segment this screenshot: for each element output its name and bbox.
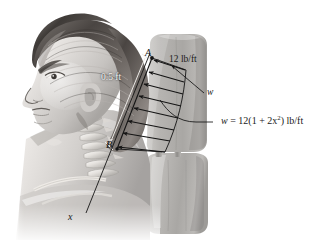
mechanics-figure: A B 0.5 ft 12 lb/ft w x w = 12(1 + 2x2) … xyxy=(0,0,315,240)
label-point-b: B xyxy=(106,140,112,150)
label-load-equation: w = 12(1 + 2x2) lb/ft xyxy=(221,115,303,126)
label-load-symbol-w: w xyxy=(207,88,213,98)
label-point-a: A xyxy=(145,48,151,58)
equation-tail: ) lb/ft xyxy=(281,115,304,126)
equation-lhs: w xyxy=(221,115,228,126)
equation-coefficient: 12(1 + 2x xyxy=(238,115,277,126)
label-peak-load: 12 lb/ft xyxy=(169,55,197,65)
label-dimension-0p5ft: 0.5 ft xyxy=(101,73,121,83)
point-b-marker xyxy=(115,147,118,150)
label-axis-x: x xyxy=(68,212,72,222)
